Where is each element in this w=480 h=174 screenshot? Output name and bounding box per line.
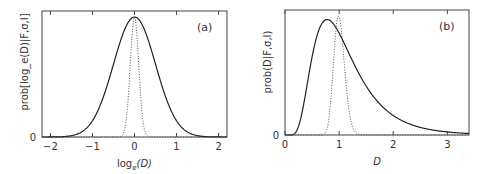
x-tick-label: 0 — [282, 139, 288, 150]
panel-b: 0123 (b) 0 D prob(D|F,σ,I) — [262, 10, 469, 167]
x-axis-label-a: loge(D) — [117, 158, 152, 172]
x-tick-label: −2 — [43, 141, 58, 152]
x-axis-label-b: D — [373, 156, 381, 167]
y-axis-label-b: prob(D|F,σ,I) — [262, 30, 274, 93]
solid-curve-b — [285, 20, 469, 135]
x-tick-label: 2 — [215, 141, 221, 152]
x-tick-label: 2 — [390, 139, 396, 150]
x-tick-label: −1 — [85, 141, 100, 152]
panel-a: −2−1012 (a) 0 loge(D) prob[log_e(D)|F,σ,… — [19, 11, 227, 172]
panel-label-b: (b) — [439, 20, 455, 33]
x-tick-label: 0 — [131, 141, 137, 152]
x-tick-label: 1 — [173, 141, 179, 152]
y-tick-zero-b: 0 — [273, 130, 279, 141]
x-axis-label-a-arg: (D) — [137, 158, 153, 169]
figure: −2−1012 (a) 0 loge(D) prob[log_e(D)|F,σ,… — [0, 0, 480, 174]
y-axis-label-a: prob[log_e(D)|F,σ,I] — [19, 13, 31, 110]
x-axis-label-a-main: log — [117, 158, 132, 169]
y-tick-zero-a: 0 — [30, 132, 36, 143]
dotted-curve-a — [42, 17, 227, 137]
x-tick-label: 3 — [444, 139, 450, 150]
dotted-curve-b — [285, 16, 469, 135]
panel-label-a: (a) — [197, 21, 212, 34]
x-tick-label: 1 — [336, 139, 342, 150]
solid-curve-a — [42, 17, 227, 137]
